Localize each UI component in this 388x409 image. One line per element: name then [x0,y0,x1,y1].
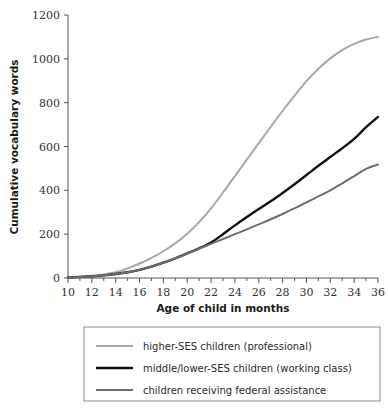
y-tick-label: 0 [53,272,60,285]
x-tick-label: 12 [85,286,99,299]
y-axis-ticks: 020040060080010001200 [32,9,68,285]
chart-canvas: 020040060080010001200 101214161820222426… [0,0,388,409]
y-tick-label: 1000 [32,53,60,66]
legend-label-0: higher-SES children (professional) [143,341,312,352]
series-line-1 [68,117,378,277]
data-series-group [68,37,378,277]
vocabulary-growth-chart: 020040060080010001200 101214161820222426… [0,0,388,409]
x-axis-title: Age of child in months [156,302,289,314]
x-tick-label: 32 [323,286,337,299]
x-tick-label: 10 [61,286,75,299]
y-tick-label: 1200 [32,9,60,22]
y-tick-label: 200 [39,228,60,241]
y-tick-label: 600 [39,141,60,154]
x-tick-label: 34 [347,286,361,299]
legend-label-2: children receiving federal assistance [143,385,326,396]
x-tick-label: 26 [252,286,266,299]
x-tick-label: 30 [299,286,313,299]
x-tick-label: 20 [180,286,194,299]
y-tick-label: 800 [39,97,60,110]
x-tick-label: 14 [109,286,123,299]
x-tick-label: 18 [156,286,170,299]
y-tick-label: 400 [39,184,60,197]
series-line-2 [68,164,378,277]
x-tick-label: 22 [204,286,218,299]
x-tick-label: 16 [133,286,147,299]
x-tick-label: 36 [371,286,385,299]
y-axis-title: Cumulative vocabulary words [8,59,20,234]
x-tick-label: 28 [276,286,290,299]
legend-label-1: middle/lower-SES children (working class… [143,363,352,374]
x-axis-ticks: 1012141618202224262830323436 [61,278,385,299]
x-tick-label: 24 [228,286,242,299]
